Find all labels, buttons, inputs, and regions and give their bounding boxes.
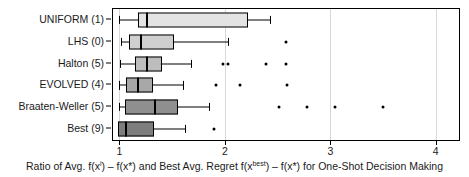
caption-part-3: ) – f(x*) for One-Shot Decision Making bbox=[266, 160, 443, 172]
x-axis-label-1: 1 bbox=[116, 145, 122, 157]
x-axis-label-2: 2 bbox=[222, 145, 228, 157]
y-axis-label-evolved-4: EVOLVED (4) bbox=[39, 78, 104, 90]
box-iqr bbox=[129, 34, 174, 49]
cap-high bbox=[270, 16, 271, 24]
y-axis: UNIFORM (1)LHS (0)Halton (5)EVOLVED (4)B… bbox=[0, 0, 112, 145]
whisker-high bbox=[178, 107, 209, 108]
box-iqr bbox=[125, 100, 179, 115]
outlier-point bbox=[238, 84, 241, 87]
outlier-point bbox=[277, 106, 280, 109]
median-line bbox=[146, 56, 148, 71]
y-axis-tick bbox=[106, 40, 111, 41]
boxplot-row bbox=[113, 75, 459, 97]
whisker-low bbox=[120, 63, 135, 64]
cap-high bbox=[185, 125, 186, 133]
whisker-low bbox=[121, 41, 128, 42]
x-axis-label-3: 3 bbox=[327, 145, 333, 157]
median-line bbox=[154, 100, 156, 115]
x-axis-label-4: 4 bbox=[433, 145, 439, 157]
plot-area bbox=[112, 8, 460, 141]
y-axis-label-lhs-0: LHS (0) bbox=[68, 35, 104, 47]
median-line bbox=[140, 34, 142, 49]
y-axis-label-uniform-1: UNIFORM (1) bbox=[39, 13, 104, 25]
cap-high bbox=[209, 103, 210, 111]
y-axis-tick bbox=[106, 62, 111, 63]
boxplot-row bbox=[113, 53, 459, 75]
boxplot-row bbox=[113, 31, 459, 53]
caption-part-1: Ratio of Avg. f(x bbox=[26, 160, 100, 172]
boxplot-row bbox=[113, 9, 459, 31]
cap-high bbox=[191, 59, 192, 67]
boxplot-row bbox=[113, 118, 459, 140]
y-axis-label-braaten-weller-5: Braaten-Weller (5) bbox=[18, 100, 104, 112]
box-iqr bbox=[135, 56, 161, 71]
box-iqr bbox=[126, 78, 153, 93]
whisker-high bbox=[153, 85, 183, 86]
boxplot-figure: UNIFORM (1)LHS (0)Halton (5)EVOLVED (4)B… bbox=[0, 0, 469, 177]
outlier-point bbox=[221, 62, 224, 65]
outlier-point bbox=[285, 40, 288, 43]
y-axis-tick bbox=[106, 84, 111, 85]
outlier-point bbox=[226, 62, 229, 65]
whisker-high bbox=[248, 19, 270, 20]
outlier-point bbox=[285, 62, 288, 65]
outlier-point bbox=[333, 106, 336, 109]
chart-caption: Ratio of Avg. f(xi) – f(x*) and Best Avg… bbox=[0, 160, 469, 172]
outlier-point bbox=[213, 128, 216, 131]
whisker-low bbox=[119, 19, 138, 20]
caption-superscript-best: best bbox=[252, 160, 265, 167]
y-axis-tick bbox=[106, 18, 111, 19]
box-iqr bbox=[118, 122, 154, 137]
outlier-point bbox=[382, 106, 385, 109]
median-line bbox=[125, 122, 127, 137]
cap-low bbox=[121, 38, 122, 46]
outlier-point bbox=[286, 84, 289, 87]
y-axis-tick bbox=[106, 106, 111, 107]
box-iqr bbox=[138, 12, 248, 27]
whisker-high bbox=[154, 129, 185, 130]
median-line bbox=[146, 12, 148, 27]
y-axis-label-best-9: Best (9) bbox=[67, 122, 104, 134]
outlier-point bbox=[264, 62, 267, 65]
cap-high bbox=[228, 38, 229, 46]
cap-low bbox=[119, 16, 120, 24]
median-line bbox=[137, 78, 139, 93]
whisker-high bbox=[174, 41, 228, 42]
caption-part-2: ) – f(x*) and Best Avg. Regret f(x bbox=[101, 160, 252, 172]
whisker-high bbox=[162, 63, 192, 64]
outlier-point bbox=[306, 106, 309, 109]
y-axis-label-halton-5: Halton (5) bbox=[58, 57, 104, 69]
cap-low bbox=[120, 59, 121, 67]
cap-low bbox=[119, 103, 120, 111]
cap-low bbox=[119, 81, 120, 89]
cap-high bbox=[183, 81, 184, 89]
outlier-point bbox=[215, 84, 218, 87]
boxplot-row bbox=[113, 96, 459, 118]
y-axis-tick bbox=[106, 128, 111, 129]
x-axis: 1234 bbox=[112, 141, 460, 157]
